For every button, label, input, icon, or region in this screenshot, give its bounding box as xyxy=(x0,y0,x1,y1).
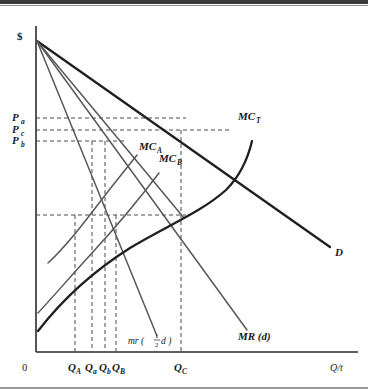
page-top-rule-thin xyxy=(0,5,368,6)
quantity-label-qb-lower: Q b xyxy=(99,361,111,376)
price-guide-lines xyxy=(36,118,232,215)
curve-label-d: D xyxy=(334,246,343,258)
curve-label-mct-base: MC xyxy=(237,110,256,122)
quantity-label-qb-upper-base: Q xyxy=(112,361,120,373)
quantity-axis-labels: Q A Q a Q b Q B Q C xyxy=(68,361,188,376)
curve-demand-d xyxy=(37,41,330,247)
quantity-label-qb-lower-sub: b xyxy=(107,367,111,376)
mr-half-d-denominator: 2 xyxy=(155,341,158,348)
dollar-axis-label: $ xyxy=(17,30,23,42)
curve-label-mcb-base: MC xyxy=(158,152,177,164)
curve-marginal-revenue-half-d xyxy=(37,41,157,336)
curve-label-mr-half-d: mr ( 1 2 d ) xyxy=(128,332,171,348)
curve-label-mct: MC T xyxy=(237,110,261,125)
curve-label-d-base: D xyxy=(334,246,343,258)
curve-label-mr-d-base: MR (d) xyxy=(237,330,271,343)
quantity-label-qb-upper-sub: B xyxy=(119,367,125,376)
quantity-label-qa-lower-base: Q xyxy=(85,361,93,373)
figure-root: $ 0 Q/t P a P c P b Q A xyxy=(0,0,368,389)
mr-half-d-suffix: d ) xyxy=(161,336,171,347)
curve-label-mcb: MC B xyxy=(158,152,182,167)
economics-diagram: $ 0 Q/t P a P c P b Q A xyxy=(0,0,368,389)
curve-label-mca-base: MC xyxy=(138,140,157,152)
quantity-label-qc-base: Q xyxy=(174,361,182,373)
curve-label-mct-sub: T xyxy=(256,116,261,125)
mr-half-d-numerator: 1 xyxy=(155,332,158,339)
quantity-label-qb-upper: Q B xyxy=(112,361,125,376)
origin-label: 0 xyxy=(22,362,27,373)
price-label-pb-base: P xyxy=(12,134,19,146)
price-label-pa-sub: a xyxy=(21,117,25,126)
curve-label-mr-d: MR (d) xyxy=(237,330,271,343)
price-label-pc-sub: c xyxy=(21,129,25,138)
quantity-label-qb-lower-base: Q xyxy=(99,361,107,373)
curve-label-mcb-sub: B xyxy=(176,158,182,167)
quantity-label-qc: Q C xyxy=(174,361,188,376)
quantity-label-qa-upper-sub: A xyxy=(75,367,81,376)
quantity-label-qa-upper-base: Q xyxy=(68,361,76,373)
price-axis-labels: P a P c P b xyxy=(12,111,25,149)
quantity-label-qa-lower: Q a xyxy=(85,361,97,376)
quantity-label-qa-upper: Q A xyxy=(68,361,81,376)
curve-marginal-revenue-d xyxy=(37,41,247,330)
price-label-pb-sub: b xyxy=(21,140,25,149)
mr-half-d-prefix: mr ( xyxy=(128,336,145,347)
quantity-label-qc-sub: C xyxy=(182,367,188,376)
price-label-pa-base: P xyxy=(12,111,19,123)
x-axis-label: Q/t xyxy=(330,362,343,373)
page-top-rule xyxy=(0,0,368,4)
quantity-label-qa-lower-sub: a xyxy=(93,367,97,376)
curves-group xyxy=(37,41,330,336)
